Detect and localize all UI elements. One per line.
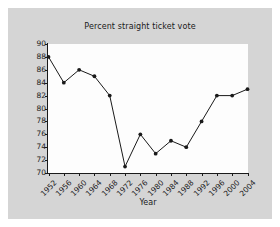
x-axis-tick-mark — [186, 173, 187, 176]
x-axis-tick-mark — [49, 173, 50, 176]
x-axis-tick-mark — [125, 173, 126, 176]
y-axis-tick-label: 82 — [8, 92, 46, 100]
data-point-marker — [108, 94, 112, 98]
x-axis-tick-label: 1980 — [146, 179, 165, 198]
data-point-marker — [47, 55, 51, 59]
data-point-marker — [93, 74, 97, 78]
x-axis-tick-label: 1976 — [131, 179, 150, 198]
x-axis-tick-mark — [79, 173, 80, 176]
y-axis-tick-label: 80 — [8, 105, 46, 113]
data-point-marker — [123, 165, 127, 169]
x-axis-tick-mark — [202, 173, 203, 176]
data-point-marker — [230, 94, 234, 98]
x-axis-tick-mark — [156, 173, 157, 176]
y-axis-tick-label: 70 — [8, 169, 46, 177]
y-axis-tick-labels: 9088868482807876747270 — [8, 44, 46, 173]
data-point-marker — [184, 145, 188, 149]
x-axis-tick-label: 1992 — [192, 179, 211, 198]
x-axis-tick-mark — [232, 173, 233, 176]
data-point-marker — [200, 120, 204, 124]
x-axis-tick-mark — [94, 173, 95, 176]
data-point-marker — [154, 152, 158, 156]
x-axis-tick-mark — [171, 173, 172, 176]
chart-title: Percent straight ticket vote — [8, 22, 272, 31]
data-point-marker — [169, 139, 173, 143]
y-axis-tick-label: 76 — [8, 131, 46, 139]
x-axis-tick-mark — [217, 173, 218, 176]
series-line — [49, 57, 248, 167]
y-axis-tick-label: 84 — [8, 79, 46, 87]
x-axis-tick-mark — [140, 173, 141, 176]
y-axis-tick-label: 78 — [8, 118, 46, 126]
y-axis-tick-label: 90 — [8, 40, 46, 48]
y-axis-tick-label: 74 — [8, 143, 46, 151]
y-axis-tick-label: 88 — [8, 53, 46, 61]
x-axis-tick-label: 1952 — [39, 179, 58, 198]
data-series-line — [48, 44, 248, 173]
x-axis-tick-mark — [110, 173, 111, 176]
figure-background: Percent straight ticket vote 90888684828… — [8, 8, 272, 219]
data-point-marker — [77, 68, 81, 72]
x-axis-tick-label: 2004 — [238, 179, 257, 198]
x-axis-tick-label: 1988 — [177, 179, 196, 198]
data-point-marker — [246, 87, 250, 91]
data-point-marker — [62, 81, 66, 85]
x-axis-tick-label: 1964 — [85, 179, 104, 198]
data-point-marker — [215, 94, 219, 98]
x-axis-tick-mark — [248, 173, 249, 176]
x-axis-tick-label: 1968 — [100, 179, 119, 198]
y-axis-tick-label: 72 — [8, 156, 46, 164]
x-axis-tick-label: 2000 — [223, 179, 242, 198]
x-axis-tick-mark — [64, 173, 65, 176]
x-axis-title: Year — [48, 198, 248, 207]
data-point-marker — [138, 132, 142, 136]
y-axis-tick-label: 86 — [8, 66, 46, 74]
